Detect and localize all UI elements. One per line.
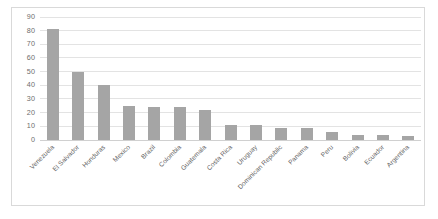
bar-slot bbox=[218, 17, 243, 140]
bar-slot bbox=[40, 17, 65, 140]
y-axis-tick-label: 10 bbox=[27, 123, 35, 130]
bar[interactable] bbox=[199, 110, 211, 140]
bar-slot bbox=[396, 17, 421, 140]
x-axis-tick: Mexico bbox=[116, 142, 141, 204]
chart-container: 9080706050403020100 VenezuelaEl Salvador… bbox=[11, 7, 425, 206]
bar-slot bbox=[116, 17, 141, 140]
bar-slot bbox=[269, 17, 294, 140]
x-axis-tick: Brazil bbox=[142, 142, 167, 204]
y-axis: 9080706050403020100 bbox=[12, 17, 38, 140]
x-axis-tick: Ecuador bbox=[370, 142, 395, 204]
y-axis-tick-label: 70 bbox=[27, 41, 35, 48]
x-axis-tick-label-text: Brazil bbox=[140, 144, 157, 161]
x-axis-tick: Guatemala bbox=[192, 142, 217, 204]
bar-slot bbox=[65, 17, 90, 140]
x-axis-tick: Venezuela bbox=[40, 142, 65, 204]
bar[interactable] bbox=[174, 107, 186, 140]
x-axis-tick: El Salvador bbox=[65, 142, 90, 204]
y-axis-tick-label: 40 bbox=[27, 82, 35, 89]
bar-slot bbox=[370, 17, 395, 140]
bar[interactable] bbox=[123, 106, 135, 140]
x-axis-tick: Peru bbox=[319, 142, 344, 204]
x-axis-tick: Costa Rica bbox=[218, 142, 243, 204]
bar-slot bbox=[167, 17, 192, 140]
bar[interactable] bbox=[98, 85, 110, 140]
bar-slot bbox=[319, 17, 344, 140]
y-axis-tick-label: 30 bbox=[27, 95, 35, 102]
bar-slot bbox=[192, 17, 217, 140]
x-axis-tick: Argentina bbox=[396, 142, 421, 204]
x-axis-tick: Colombia bbox=[167, 142, 192, 204]
x-axis-tick-label-text: Peru bbox=[320, 144, 335, 159]
bar[interactable] bbox=[47, 29, 59, 140]
y-axis-tick-label: 20 bbox=[27, 109, 35, 116]
x-axis-tick: Dominican Republic bbox=[269, 142, 294, 204]
y-axis-tick-label: 80 bbox=[27, 27, 35, 34]
x-axis-tick: Panama bbox=[294, 142, 319, 204]
bar-slot bbox=[345, 17, 370, 140]
bar-slot bbox=[243, 17, 268, 140]
x-axis-tick-label-text: Bolivia bbox=[342, 144, 361, 163]
chart-plot-wrapper: 9080706050403020100 VenezuelaEl Salvador… bbox=[12, 8, 424, 205]
x-axis: VenezuelaEl SalvadorHondurasMexicoBrazil… bbox=[40, 142, 421, 204]
y-axis-tick-label: 90 bbox=[27, 13, 35, 20]
bar-slot bbox=[142, 17, 167, 140]
bar-slot bbox=[91, 17, 116, 140]
x-axis-tick: Honduras bbox=[91, 142, 116, 204]
y-axis-tick-label: 0 bbox=[31, 136, 35, 143]
y-axis-tick-label: 50 bbox=[27, 68, 35, 75]
y-axis-tick-label: 60 bbox=[27, 54, 35, 61]
bar[interactable] bbox=[148, 107, 160, 140]
x-axis-tick: Bolivia bbox=[345, 142, 370, 204]
